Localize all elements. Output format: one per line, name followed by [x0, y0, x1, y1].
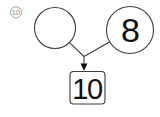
right-addend-value: 8 — [121, 11, 139, 49]
down-arrowhead-icon — [81, 64, 88, 71]
number-bond-diagram: 10 8 10 — [0, 0, 160, 117]
right-connector-line — [84, 42, 110, 57]
right-addend-node: 8 — [107, 7, 154, 54]
left-addend-blank[interactable] — [35, 8, 76, 49]
worksheet-diagram: 10 8 10 — [0, 0, 160, 117]
item-number-badge: 10 — [10, 7, 21, 18]
left-connector-line — [70, 43, 84, 57]
left-addend-circle[interactable] — [35, 8, 76, 49]
sum-value: 10 — [72, 73, 102, 105]
item-number-label: 10 — [12, 8, 20, 17]
sum-node: 10 — [70, 72, 105, 105]
